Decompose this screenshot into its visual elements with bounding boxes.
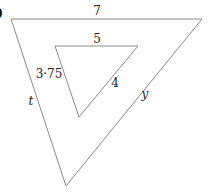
inner-triangle bbox=[55, 46, 138, 117]
outer-top-label: 7 bbox=[93, 4, 101, 18]
inner-top-label: 5 bbox=[93, 32, 101, 46]
inner-left-label: 3·75 bbox=[36, 67, 63, 81]
similar-triangles-diagram: ) 7 t y 5 3·75 4 bbox=[0, 0, 209, 195]
inner-right-label: 4 bbox=[111, 76, 119, 90]
outer-left-label: t bbox=[29, 94, 34, 108]
outer-triangle bbox=[11, 19, 202, 186]
corner-mark: ) bbox=[0, 5, 3, 20]
outer-right-label: y bbox=[141, 87, 149, 101]
